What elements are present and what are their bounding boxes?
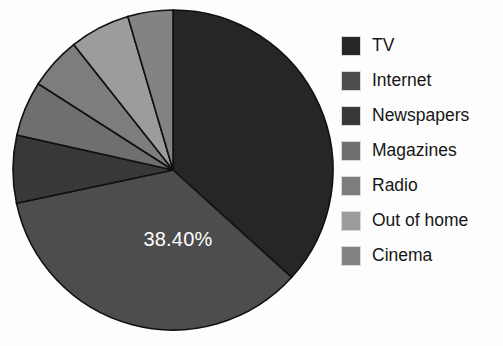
chart-legend: TV Internet Newspapers Magazines Radio O…: [341, 28, 503, 273]
legend-item-label: Out of home: [372, 212, 468, 230]
legend-item-label: Internet: [372, 72, 431, 90]
legend-item-label: TV: [372, 37, 394, 55]
legend-swatch-icon: [341, 36, 361, 56]
legend-item-label: Radio: [372, 177, 418, 195]
legend-item-tv[interactable]: TV: [341, 28, 503, 63]
legend-item-cinema[interactable]: Cinema: [341, 238, 503, 273]
legend-item-magazines[interactable]: Magazines: [341, 133, 503, 168]
legend-item-internet[interactable]: Internet: [341, 63, 503, 98]
legend-item-label: Magazines: [372, 142, 457, 160]
legend-item-label: Newspapers: [372, 107, 469, 125]
pie-plot-area: 38.40%: [0, 0, 345, 346]
legend-swatch-icon: [341, 246, 361, 266]
legend-swatch-icon: [341, 211, 361, 231]
pie-data-label: 38.40%: [118, 228, 238, 251]
pie-svg: [0, 0, 345, 346]
legend-swatch-icon: [341, 141, 361, 161]
legend-item-radio[interactable]: Radio: [341, 168, 503, 203]
legend-item-newspapers[interactable]: Newspapers: [341, 98, 503, 133]
legend-swatch-icon: [341, 106, 361, 126]
legend-item-out-of-home[interactable]: Out of home: [341, 203, 503, 238]
legend-swatch-icon: [341, 71, 361, 91]
pie-chart: 38.40% TV Internet Newspapers Magazines …: [0, 0, 503, 346]
legend-item-label: Cinema: [372, 247, 432, 265]
legend-swatch-icon: [341, 176, 361, 196]
